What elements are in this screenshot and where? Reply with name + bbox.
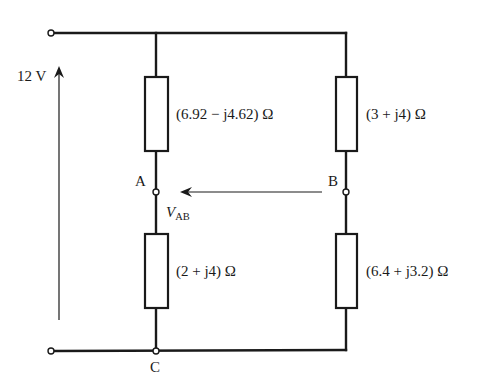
node-b — [343, 189, 349, 195]
impedance-bottom-right-label: (6.4 + j3.2) Ω — [366, 263, 449, 280]
node-c — [153, 348, 159, 354]
impedance-top-right-label: (3 + j4) Ω — [366, 106, 426, 123]
node-a — [153, 189, 159, 195]
impedance-bottom-left — [145, 234, 168, 308]
node-a-label: A — [135, 173, 146, 189]
source-voltage-label: 12 V — [17, 68, 46, 84]
impedance-top-left — [145, 77, 168, 151]
vab-arrow — [180, 187, 322, 197]
circuit-diagram: 12 V (6.92 − j4.62) Ω (2 + j4) Ω (3 + j4… — [0, 0, 485, 392]
top-wire — [54, 33, 346, 77]
impedance-bottom-right — [336, 234, 357, 308]
bottom-input-terminal — [48, 348, 54, 354]
impedance-bottom-left-label: (2 + j4) Ω — [176, 263, 236, 280]
bottom-wire — [54, 308, 346, 351]
impedance-top-left-label: (6.92 − j4.62) Ω — [176, 106, 274, 123]
source-voltage-arrow — [54, 66, 64, 320]
impedance-top-right — [336, 77, 357, 151]
top-input-terminal — [48, 30, 54, 36]
vab-label: VAB — [166, 204, 190, 222]
node-c-label: C — [150, 359, 160, 375]
node-b-label: B — [328, 173, 338, 189]
